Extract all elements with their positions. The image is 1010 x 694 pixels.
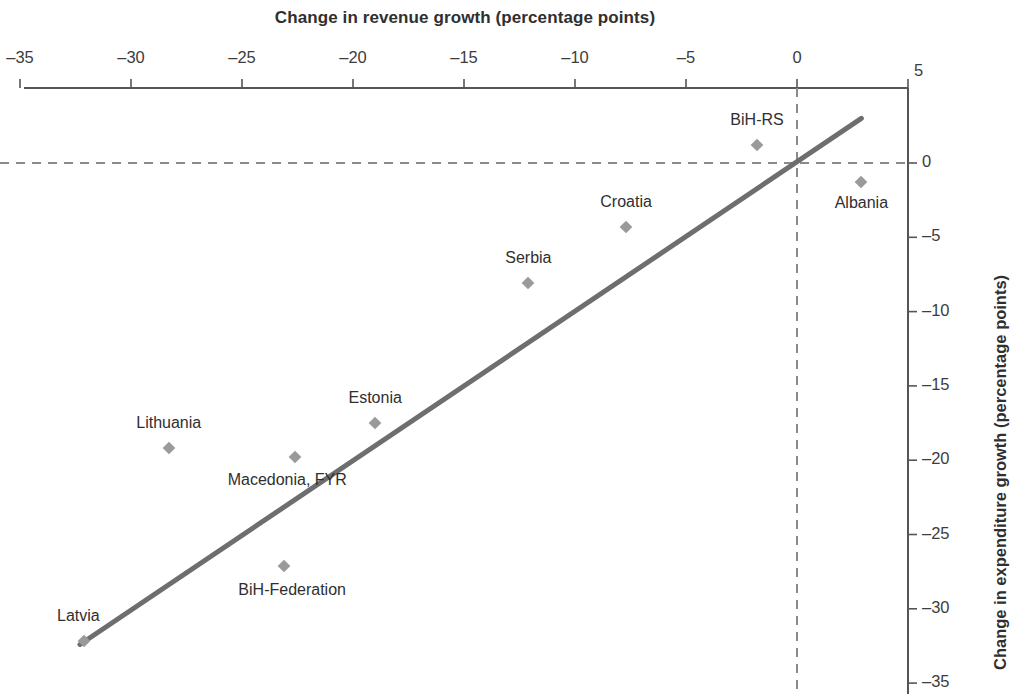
data-point-marker[interactable] — [162, 442, 175, 455]
data-point-label: Macedonia, FYR — [228, 471, 347, 489]
y-tick-label: –35 — [922, 672, 950, 691]
data-point-marker[interactable] — [278, 559, 291, 572]
y-tick-label: –5 — [922, 226, 940, 245]
y-axis-ticks — [908, 163, 917, 683]
x-tick-label: 5 — [914, 61, 923, 80]
data-point-marker[interactable] — [620, 221, 633, 234]
data-point-label: BiH-Federation — [238, 581, 346, 599]
x-axis-title: Change in revenue growth (percentage poi… — [0, 8, 930, 28]
trend-line-group — [80, 118, 861, 644]
trend-line — [80, 118, 861, 644]
reference-lines — [0, 88, 908, 694]
data-point-marker[interactable] — [289, 451, 302, 464]
data-point-marker[interactable] — [369, 417, 382, 430]
x-tick-label: –35 — [6, 48, 34, 67]
data-point-marker[interactable] — [78, 635, 91, 648]
y-tick-label: 0 — [922, 152, 931, 171]
data-point-label: Estonia — [349, 389, 402, 407]
x-tick-label: –5 — [677, 48, 695, 67]
x-tick-label: –25 — [228, 48, 256, 67]
x-tick-label: –15 — [450, 48, 478, 67]
x-tick-label: –10 — [561, 48, 589, 67]
y-tick-label: –30 — [922, 598, 950, 617]
y-tick-label: –25 — [922, 524, 950, 543]
data-point-label: Serbia — [505, 249, 551, 267]
data-point-label: BiH-RS — [730, 111, 783, 129]
data-point-marker[interactable] — [855, 176, 868, 189]
x-axis-ticks — [20, 79, 908, 88]
y-axis-group — [908, 88, 917, 694]
y-axis-title: Change in expenditure growth (percentage… — [991, 150, 1010, 670]
data-point-label: Albania — [835, 194, 888, 212]
x-axis-group — [20, 79, 908, 88]
y-tick-label: –15 — [922, 375, 950, 394]
data-point-marker[interactable] — [751, 139, 764, 152]
data-point-label: Lithuania — [136, 414, 201, 432]
y-tick-label: –10 — [922, 301, 950, 320]
x-tick-label: 0 — [792, 48, 801, 67]
x-tick-label: –20 — [339, 48, 367, 67]
y-tick-label: –20 — [922, 449, 950, 468]
data-point-label: Latvia — [57, 607, 100, 625]
data-point-label: Croatia — [600, 193, 652, 211]
data-point-marker[interactable] — [522, 277, 535, 290]
x-tick-label: –30 — [117, 48, 145, 67]
